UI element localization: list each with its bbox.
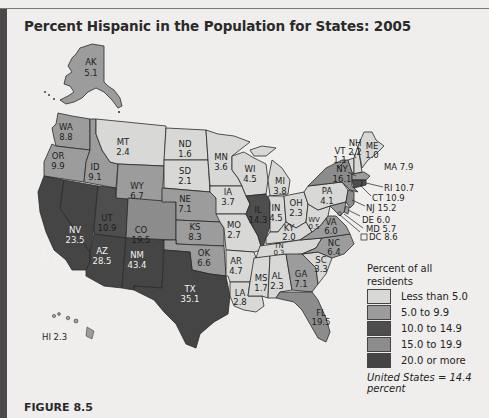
svg-text:NE: NE [179,194,191,204]
svg-text:WA: WA [59,122,73,132]
legend-swatch [367,289,391,304]
state-RI[interactable] [362,180,366,186]
svg-text:KS: KS [190,222,201,232]
svg-text:0.3: 0.3 [273,249,284,257]
svg-text:RI 10.7: RI 10.7 [384,183,414,193]
svg-text:14.3: 14.3 [249,215,268,225]
legend-item: 15.0 to 19.9 [367,336,477,352]
svg-text:1.1: 1.1 [333,155,347,165]
svg-text:OH: OH [289,198,302,208]
legend-item: 20.0 or more [367,352,477,368]
svg-text:HI 2.3: HI 2.3 [42,332,67,342]
state-CO[interactable] [126,198,176,240]
svg-text:4.1: 4.1 [320,196,334,206]
svg-text:AK: AK [85,57,97,67]
svg-text:2.3: 2.3 [289,208,303,218]
svg-text:3.8: 3.8 [273,186,287,196]
svg-text:UT: UT [101,213,113,223]
svg-text:35.2: 35.2 [39,256,58,266]
svg-text:3.6: 3.6 [214,162,228,172]
svg-text:7.1: 7.1 [178,204,192,214]
legend-item: 5.0 to 9.9 [367,304,477,320]
figure-label: FIGURE 8.5 [24,401,93,414]
svg-text:8.8: 8.8 [59,132,73,142]
svg-text:2.3: 2.3 [270,281,284,291]
svg-text:4.5: 4.5 [243,174,257,184]
svg-text:WI: WI [245,164,256,174]
svg-text:OK: OK [198,248,211,258]
svg-text:CT 10.9: CT 10.9 [372,193,405,203]
svg-text:4.7: 4.7 [229,266,243,276]
svg-text:2.2: 2.2 [348,147,362,157]
svg-text:CO: CO [135,225,148,235]
svg-text:AL: AL [272,271,283,281]
svg-text:16.1: 16.1 [333,174,352,184]
svg-text:IL: IL [254,205,262,215]
svg-text:NV: NV [69,225,81,235]
state-MA[interactable] [352,172,370,180]
legend-swatch [367,305,391,320]
svg-text:6.6: 6.6 [197,258,211,268]
legend-swatch [367,321,391,336]
svg-text:NM: NM [130,250,144,260]
svg-text:MT: MT [117,137,130,147]
svg-text:3.7: 3.7 [221,197,235,207]
svg-text:9.1: 9.1 [88,172,102,182]
svg-text:43.4: 43.4 [128,260,147,270]
svg-text:6.0: 6.0 [324,226,338,236]
svg-text:AZ: AZ [96,246,108,256]
svg-text:DC 8.6: DC 8.6 [369,232,398,242]
legend-item: Less than 5.0 [367,288,477,304]
svg-text:TX: TX [183,284,195,294]
svg-text:8.3: 8.3 [188,232,202,242]
svg-text:1.6: 1.6 [178,149,192,159]
svg-text:3.3: 3.3 [314,264,328,274]
svg-text:19.5: 19.5 [312,317,331,327]
svg-text:1.7: 1.7 [254,283,268,293]
svg-text:MN: MN [214,152,228,162]
svg-text:ID: ID [90,162,100,172]
svg-text:9.9: 9.9 [51,161,65,171]
svg-text:2.8: 2.8 [233,297,247,307]
svg-text:6.4: 6.4 [327,247,341,257]
svg-text:MO: MO [227,220,241,230]
state-DC[interactable] [338,212,341,215]
svg-text:35.1: 35.1 [181,294,200,304]
svg-text:WY: WY [130,181,144,191]
legend-item: 10.0 to 14.9 [367,320,477,336]
svg-text:PA: PA [322,186,333,196]
state-CT[interactable] [352,180,362,188]
svg-text:GA: GA [295,269,308,279]
svg-text:28.5: 28.5 [93,256,112,266]
legend: Percent of all residents Less than 5.0 5… [367,262,477,368]
svg-text:19.5: 19.5 [132,235,151,245]
svg-text:AR: AR [230,256,242,266]
state-NJ[interactable] [346,190,354,208]
svg-text:MI: MI [275,176,285,186]
us-total-note: United States = 14.4 percent [367,372,489,394]
svg-text:23.5: 23.5 [66,235,85,245]
svg-text:MA 7.9: MA 7.9 [384,162,413,172]
svg-text:5.1: 5.1 [84,68,98,78]
svg-text:0.5: 0.5 [308,223,319,231]
svg-text:NY: NY [336,164,348,174]
svg-text:IN: IN [272,203,281,213]
svg-text:2.1: 2.1 [178,176,192,186]
svg-text:2.7: 2.7 [227,230,241,240]
svg-text:NJ 15.2: NJ 15.2 [366,203,397,213]
svg-text:7.1: 7.1 [294,279,308,289]
svg-text:OR: OR [52,151,65,161]
legend-title: Percent of all residents [367,262,477,288]
svg-text:MS: MS [255,273,268,283]
svg-text:1.0: 1.0 [365,150,379,160]
svg-text:4.5: 4.5 [269,213,283,223]
legend-swatch [367,353,391,368]
svg-text:2.4: 2.4 [116,147,130,157]
svg-text:10.9: 10.9 [98,223,117,233]
svg-text:ND: ND [179,139,192,149]
svg-text:SD: SD [179,166,191,176]
svg-text:2.0: 2.0 [282,232,296,242]
svg-text:IA: IA [224,187,233,197]
svg-text:CA: CA [42,246,54,256]
svg-text:6.7: 6.7 [130,191,144,201]
